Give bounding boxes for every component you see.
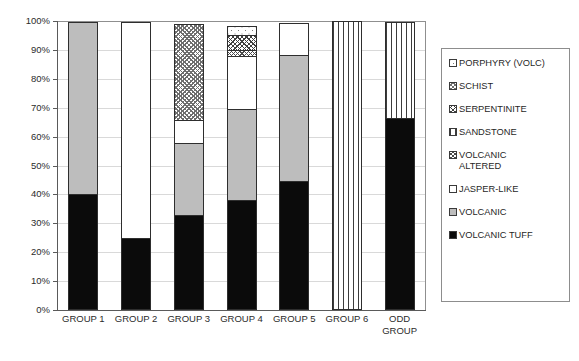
legend-swatch-icon [449, 59, 457, 67]
bar-segment-jasper-like[interactable] [227, 56, 257, 109]
y-tick-label-20: 20% [16, 247, 50, 257]
y-tick-label-10: 10% [16, 276, 50, 286]
legend-item-porphyry-volc-[interactable]: PORPHYRY (VOLC) [449, 58, 569, 69]
legend-swatch-icon [449, 185, 457, 193]
legend-swatch-icon [449, 208, 457, 216]
legend-item-jasper-like[interactable]: JASPER-LIKE [449, 184, 569, 195]
chart-legend: PORPHYRY (VOLC)SCHISTSERPENTINITESANDSTO… [441, 48, 570, 302]
legend-swatch-icon [449, 128, 457, 136]
bar-group-1[interactable] [68, 21, 98, 310]
y-tick-label-60: 60% [16, 132, 50, 142]
x-axis-label-group-2: GROUP 2 [110, 313, 163, 325]
legend-swatch-icon [449, 105, 457, 113]
legend-label: SCHIST [459, 81, 493, 92]
legend-label: JASPER-LIKE [459, 184, 518, 195]
bar-segment-schist[interactable] [174, 24, 204, 121]
legend-item-sandstone[interactable]: SANDSTONE [449, 127, 569, 138]
legend-label: PORPHYRY (VOLC) [459, 58, 545, 69]
y-tick-label-90: 90% [16, 45, 50, 55]
bar-group-6[interactable] [332, 21, 362, 310]
legend-swatch-icon [449, 82, 457, 90]
legend-item-volcanic-tuff[interactable]: VOLCANIC TUFF [449, 230, 569, 241]
bar-segment-sandstone[interactable] [332, 21, 362, 310]
bar-segment-volcanic-tuff[interactable] [227, 200, 257, 310]
y-tick-label-100: 100% [16, 16, 50, 26]
plot-area: 0%10%20%30%40%50%60%70%80%90%100% GROUP … [0, 0, 440, 361]
bar-segment-volcanic-tuff[interactable] [174, 215, 204, 310]
legend-swatch-icon [449, 151, 457, 159]
legend-label: SERPENTINITE [459, 104, 527, 115]
x-axis-label-group-3: GROUP 3 [162, 313, 215, 325]
bar-segment-volcanic[interactable] [68, 22, 98, 195]
y-tick-label-0: 0% [16, 305, 50, 315]
legend-label: SANDSTONE [459, 127, 517, 138]
bar-segment-volcanic-tuff[interactable] [279, 181, 309, 310]
gridline-0 [57, 310, 426, 311]
y-tick-mark-0 [53, 310, 57, 311]
y-tick-label-30: 30% [16, 218, 50, 228]
bar-group-3[interactable] [174, 21, 204, 310]
bar-segment-volcanic-tuff[interactable] [385, 118, 415, 310]
x-axis-label-group-1: GROUP 1 [57, 313, 110, 325]
x-axis-label-group-4: GROUP 4 [215, 313, 268, 325]
axis-area [57, 21, 426, 310]
x-axis-label-odd-group: ODD GROUP [373, 313, 426, 337]
legend-item-volcanic[interactable]: VOLCANIC [449, 207, 569, 218]
y-tick-label-40: 40% [16, 189, 50, 199]
bar-segment-volcanic[interactable] [279, 55, 309, 182]
y-tick-label-50: 50% [16, 161, 50, 171]
y-axis-labels: 0%10%20%30%40%50%60%70%80%90%100% [12, 0, 50, 361]
bar-group-2[interactable] [121, 21, 151, 310]
bar-segment-jasper-like[interactable] [174, 120, 204, 145]
bar-segment-jasper-like[interactable] [121, 22, 151, 239]
legend-item-serpentinite[interactable]: SERPENTINITE [449, 104, 569, 115]
bar-segment-sandstone[interactable] [385, 22, 415, 119]
x-axis-label-group-6: GROUP 6 [321, 313, 374, 325]
y-tick-label-70: 70% [16, 103, 50, 113]
bar-segment-volcanic[interactable] [174, 143, 204, 215]
legend-item-schist[interactable]: SCHIST [449, 81, 569, 92]
y-tick-label-80: 80% [16, 74, 50, 84]
legend-label: VOLCANIC [459, 207, 507, 218]
x-axis-label-group-5: GROUP 5 [268, 313, 321, 325]
bar-segment-volcanic[interactable] [227, 109, 257, 201]
bar-segment-volcanic-tuff[interactable] [121, 238, 151, 310]
legend-label: VOLCANIC ALTERED [459, 150, 507, 171]
bar-segment-serpentinite[interactable] [227, 35, 257, 51]
bar-odd-group[interactable] [385, 21, 415, 310]
legend-swatch-icon [449, 231, 457, 239]
legend-item-volcanic-altered[interactable]: VOLCANIC ALTERED [449, 150, 569, 171]
stacked-bar-chart: 0%10%20%30%40%50%60%70%80%90%100% GROUP … [0, 0, 579, 361]
bar-segment-jasper-like[interactable] [279, 23, 309, 56]
bar-group-4[interactable] [227, 21, 257, 310]
bar-segment-volcanic-tuff[interactable] [68, 194, 98, 310]
bar-group-5[interactable] [279, 21, 309, 310]
legend-label: VOLCANIC TUFF [459, 230, 533, 241]
x-axis-labels: GROUP 1GROUP 2GROUP 3GROUP 4GROUP 5GROUP… [57, 313, 426, 359]
bar-series-host [57, 21, 426, 310]
